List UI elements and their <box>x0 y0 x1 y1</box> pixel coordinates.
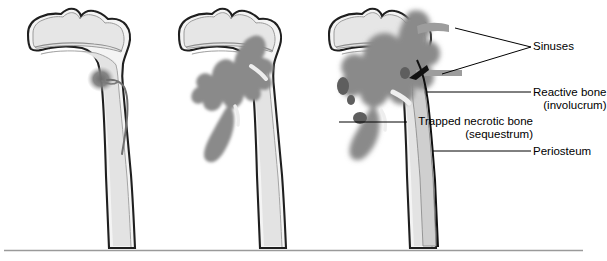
label-sinuses: Sinuses <box>533 40 574 53</box>
label-reactive-bone-subtext: (involucrum) <box>533 99 607 112</box>
label-periosteum-text: Periosteum <box>533 145 591 157</box>
panel-1-early-infection <box>28 9 135 248</box>
label-reactive-bone: Reactive bone (involucrum) <box>533 86 607 111</box>
label-trapped-necrotic-bone: Trapped necrotic bone (sequestrum) <box>410 115 533 140</box>
leader-sinuses-upper <box>455 28 531 47</box>
label-reactive-bone-text: Reactive bone <box>533 86 607 98</box>
label-periosteum: Periosteum <box>533 145 591 158</box>
panel-2-spreading-infection <box>179 9 286 248</box>
label-sinuses-text: Sinuses <box>533 40 574 52</box>
leader-sinuses-lower <box>442 47 531 74</box>
label-trapped-necrotic-bone-text: Trapped necrotic bone <box>418 115 533 127</box>
label-trapped-necrotic-bone-subtext: (sequestrum) <box>410 128 533 141</box>
sinus-tract-upper <box>417 23 449 34</box>
